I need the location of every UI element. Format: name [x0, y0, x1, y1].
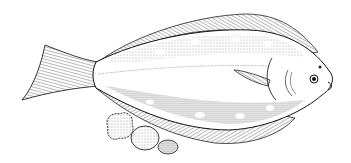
fish-illustration: flatfish illustration [0, 0, 351, 163]
tail-fin [22, 45, 98, 100]
flatfish-drawing [0, 0, 351, 163]
